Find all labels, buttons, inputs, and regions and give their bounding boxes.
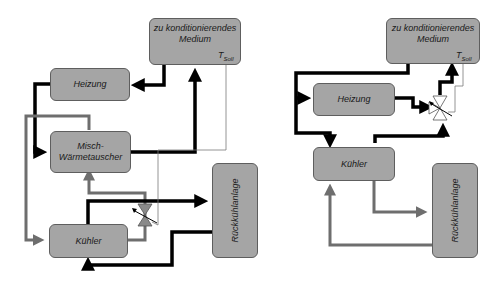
mischer-box-left: Misch- Wärmetauscher (50, 131, 131, 173)
kuehler-label: Kühler (75, 236, 101, 247)
medium-label-line2: Medium (179, 34, 211, 45)
line-heizung-to-valve-right (395, 98, 428, 107)
line-valve-to-medium-right (440, 67, 452, 95)
heizung-box-left: Heizung (50, 68, 130, 101)
medium-label-line1: zu konditionierendes (154, 23, 237, 34)
medium-label-line1: zu konditionierendes (392, 23, 475, 34)
rueckkuehl-box-right: Rückkühlanlage (432, 163, 478, 258)
mischer-label-line1: Misch- (77, 141, 104, 152)
kuehler-box-right: Kühler (313, 147, 395, 181)
heizung-label: Heizung (337, 94, 370, 105)
tsoll-label-left: TSoll (218, 50, 234, 62)
rueckkuehl-label: Rückkühlanlage (230, 178, 241, 242)
heizung-label: Heizung (73, 79, 106, 90)
line-kuehler-to-rueckkuehl-right (374, 180, 423, 212)
kuehler-box-left: Kühler (49, 224, 128, 258)
line-rueckkuehl-to-kuehler-right (330, 188, 432, 245)
kuehler-label: Kühler (341, 159, 367, 170)
tsoll-label-right: TSoll (456, 50, 472, 62)
rueckkuehl-box-left: Rückkühlanlage (212, 163, 258, 258)
rueckkuehl-label: Rückkühlanlage (450, 178, 461, 242)
heizung-box-right: Heizung (313, 83, 395, 116)
line-heizung-to-mischer (35, 84, 50, 152)
line-medium-to-heizung (136, 64, 164, 85)
valve-right (429, 96, 452, 120)
mischer-label-line2: Wärmetauscher (59, 152, 123, 163)
line-kuehler-to-valve-right (375, 128, 443, 143)
medium-label-line2: Medium (417, 34, 449, 45)
diagram-canvas: zu konditionierendes Medium TSoll Heizun… (0, 0, 502, 284)
